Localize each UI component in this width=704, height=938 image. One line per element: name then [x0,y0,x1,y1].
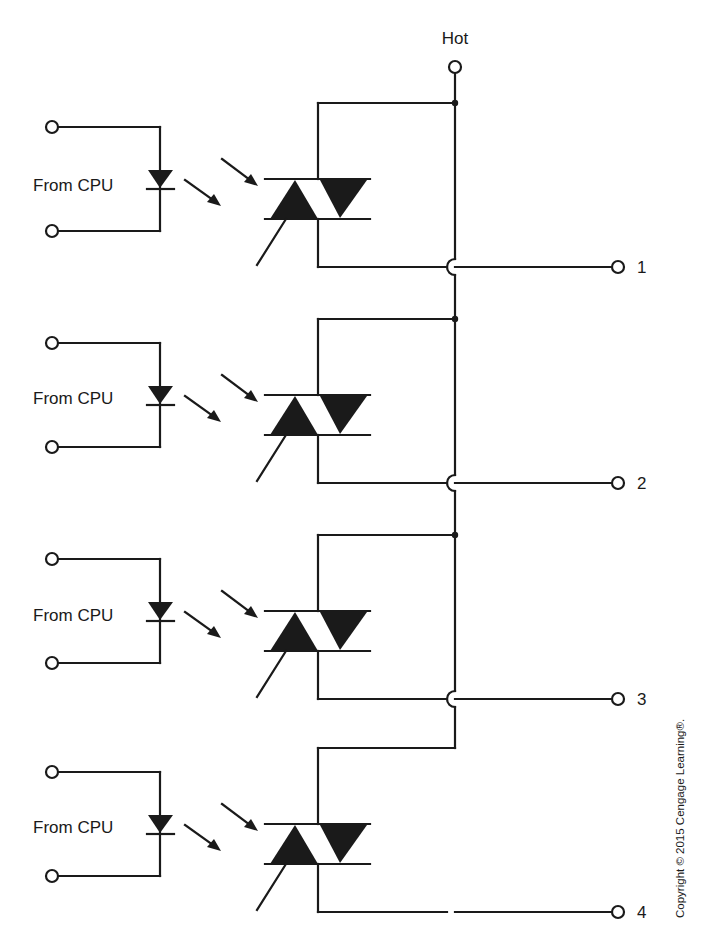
input-label: From CPU [33,818,113,837]
circuit-diagram: Hot [0,0,704,938]
output-label: 1 [637,258,646,277]
copyright-notice: Copyright © 2015 Cengage Learning®. [674,719,686,918]
junction-dot-icon [452,532,458,538]
hot-label: Hot [442,29,469,48]
channel-2: From CPU 2 [33,316,646,493]
output-terminal-icon [612,906,624,918]
output-terminal-icon [612,261,624,273]
output-label: 3 [637,690,646,709]
crossover-hop-icon [447,259,455,275]
optocoupler-triac-icon [46,748,612,912]
crossover-hop-icon [447,475,455,491]
input-label: From CPU [33,389,113,408]
optocoupler-triac-icon [46,319,612,483]
output-label: 4 [637,903,646,922]
crossover-hop-icon [447,691,455,707]
output-terminal-icon [612,693,624,705]
channel-3: From CPU 3 [33,532,646,709]
junction-dot-icon [452,316,458,322]
optocoupler-triac-icon [46,535,612,699]
output-terminal-icon [612,477,624,489]
input-label: From CPU [33,176,113,195]
channel-1: From CPU 1 [33,100,646,277]
optocoupler-triac-icon [46,103,612,267]
channel-4: From CPU 4 [33,748,646,922]
output-label: 2 [637,474,646,493]
input-label: From CPU [33,606,113,625]
junction-dot-icon [452,100,458,106]
hot-terminal-icon [449,61,461,73]
